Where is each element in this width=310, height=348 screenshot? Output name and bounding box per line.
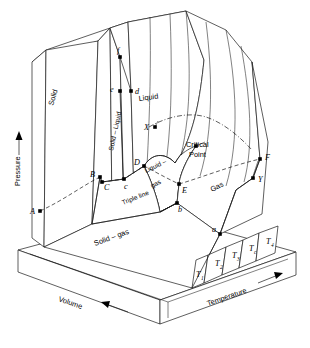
point-dot-d (129, 89, 133, 93)
point-dot-E (177, 182, 181, 186)
point-label-D: D (133, 158, 140, 167)
point-dot-f (118, 55, 122, 59)
point-label-F: F (264, 153, 271, 162)
point-dot-A (38, 209, 42, 213)
point-label-A: A (29, 207, 36, 216)
critical-point-label-line2: Point (189, 150, 206, 159)
point-dot-critical (194, 144, 198, 148)
point-dot-B (98, 175, 102, 179)
isotherm-sub-1: 1 (201, 275, 204, 281)
pressure-axis-label: Pressure (13, 156, 22, 186)
point-label-a: a (212, 225, 216, 234)
point-label-X: X (143, 123, 150, 132)
isotherm-sub-4: 4 (271, 242, 274, 248)
point-dot-e (118, 89, 122, 93)
isotherm-sub-2: 2 (220, 264, 223, 270)
point-dot-Y (251, 176, 255, 180)
pvt-surface-diagram: Pressure Volume Temperature Solid Solid … (0, 0, 310, 348)
point-label-B: B (90, 170, 95, 179)
up-arrow-icon (16, 131, 23, 155)
point-label-e: e (110, 85, 114, 94)
point-dot-a (218, 232, 222, 236)
isotherm-sub-3: 3 (236, 256, 240, 262)
point-dot-c (122, 177, 126, 181)
point-dot-D (142, 164, 146, 168)
axis-pressure: Pressure (13, 131, 23, 186)
point-label-E: E (181, 186, 187, 195)
point-label-c: c (124, 182, 128, 191)
point-dot-F (258, 157, 262, 161)
point-label-C: C (104, 183, 110, 192)
point-dot-X (153, 125, 157, 129)
volume-axis-label: Volume (57, 294, 83, 311)
point-label-b: b (178, 205, 182, 214)
